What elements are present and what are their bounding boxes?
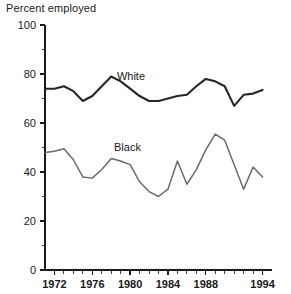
y-axis: 020406080100 (18, 19, 45, 276)
axis-lines (45, 25, 272, 270)
y-tick-label: 20 (24, 215, 36, 227)
series-label-black: Black (114, 141, 141, 153)
x-axis: 197219761980198419881994 (42, 270, 275, 290)
axis-frame (45, 25, 272, 270)
x-tick-label: 1972 (42, 278, 66, 290)
chart-figure: Percent employed 020406080100 1972197619… (0, 0, 291, 294)
x-tick-label: 1994 (250, 278, 275, 290)
x-tick-label: 1980 (118, 278, 142, 290)
y-tick-label: 100 (18, 19, 36, 31)
y-tick-label: 80 (24, 68, 36, 80)
y-tick-label: 0 (30, 264, 36, 276)
y-tick-label: 40 (24, 166, 36, 178)
series-line-black (45, 134, 263, 196)
series-annotations: WhiteBlack (114, 70, 145, 153)
line-chart-plot: 020406080100 197219761980198419881994 Wh… (0, 0, 291, 294)
y-tick-label: 60 (24, 117, 36, 129)
series-label-white: White (117, 70, 145, 82)
data-series-group (45, 76, 263, 196)
x-tick-label: 1984 (156, 278, 181, 290)
x-tick-label: 1976 (80, 278, 104, 290)
series-line-white (45, 76, 263, 105)
x-tick-label: 1988 (194, 278, 218, 290)
